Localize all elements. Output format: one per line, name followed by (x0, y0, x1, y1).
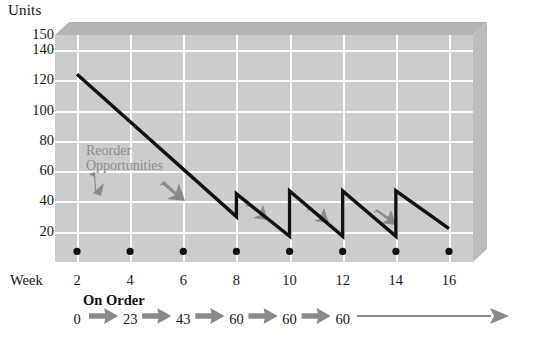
y-tick-label-20: 20 (10, 224, 54, 239)
x-tick-label-16: 16 (442, 272, 457, 289)
on-order-arrows-layer (0, 300, 540, 334)
plot-bevel-right (473, 22, 487, 262)
y-tick-label-100: 100 (10, 103, 54, 118)
x-tick-label-14: 14 (389, 272, 404, 289)
reorder-dot-week-8 (233, 248, 240, 255)
inventory-sawtooth-chart: Units 15014012010080604020 Reorder Oppor… (0, 0, 540, 338)
data-series-layer (55, 35, 473, 262)
plot-bevel-top (55, 22, 487, 35)
reorder-dot-week-2 (73, 248, 80, 255)
reorder-dot-week-6 (180, 248, 187, 255)
reorder-dot-group (73, 248, 452, 255)
y-tick-label-120: 120 (10, 72, 54, 87)
on-order-arrow-2-icon (142, 308, 171, 324)
on-order-arrow-5-icon (302, 308, 331, 324)
reorder-dot-week-12 (339, 248, 346, 255)
x-tick-label-4: 4 (127, 272, 134, 289)
x-axis-title: Week (10, 272, 43, 289)
x-tick-label-2: 2 (73, 272, 80, 289)
reorder-dot-week-14 (392, 248, 399, 255)
inventory-line (77, 74, 449, 236)
x-tick-label-8: 8 (233, 272, 240, 289)
y-tick-label-40: 40 (10, 193, 54, 208)
reorder-dot-week-4 (127, 248, 134, 255)
reorder-dot-week-16 (445, 248, 452, 255)
on-order-arrow-3-icon (195, 308, 224, 324)
on-order-arrow-4-icon (248, 308, 277, 324)
plot-bevel-right-shape (473, 22, 487, 262)
on-order-arrow-1-icon (89, 308, 118, 324)
on-order-continuation-arrow-icon (357, 308, 509, 324)
y-tick-label-60: 60 (10, 163, 54, 178)
plot-bevel-top-shape (55, 22, 487, 35)
y-tick-label-140: 140 (10, 42, 54, 57)
x-tick-label-12: 12 (335, 272, 350, 289)
y-tick-label-150: 150 (10, 27, 54, 42)
plot-area: Reorder Opportunities (55, 22, 487, 262)
plot-face: Reorder Opportunities (55, 35, 473, 262)
x-tick-label-6: 6 (180, 272, 187, 289)
y-tick-label-80: 80 (10, 133, 54, 148)
x-tick-label-10: 10 (282, 272, 297, 289)
reorder-dot-week-10 (286, 248, 293, 255)
